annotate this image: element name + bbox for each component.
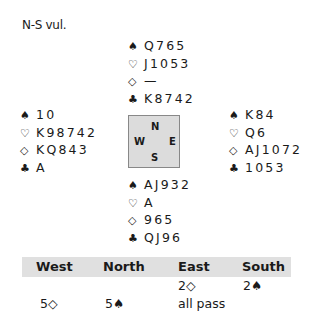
heart-icon: ♡ — [128, 56, 144, 74]
compass-box: N W E S — [128, 115, 180, 168]
compass-east: E — [169, 136, 176, 147]
south-clubs: QJ96 — [144, 230, 182, 245]
north-hearts: J1053 — [144, 56, 191, 71]
spade-icon: ♠ — [128, 177, 144, 195]
west-clubs: A — [36, 160, 47, 175]
diamond-icon: ◇ — [128, 73, 144, 91]
diamond-icon: ◇ — [20, 142, 36, 160]
south-hand: ♠AJ932 ♡A ◇965 ♣QJ96 — [128, 176, 191, 246]
compass-west: W — [134, 136, 145, 147]
north-hand: ♠Q765 ♡J1053 ◇— ♣K8742 — [128, 37, 195, 107]
west-hearts: K98742 — [36, 125, 97, 140]
spade-icon: ♠ — [128, 38, 144, 56]
club-icon: ♣ — [20, 160, 36, 178]
vulnerability-label: N-S vul. — [22, 18, 66, 32]
west-hand: ♠10 ♡K98742 ◇KQ843 ♣A — [20, 106, 97, 176]
north-spades: Q765 — [144, 38, 187, 53]
heart-icon: ♡ — [20, 125, 36, 143]
north-diamonds: — — [144, 73, 159, 88]
north-clubs: K8742 — [144, 91, 195, 106]
auction-header-south: South — [242, 259, 285, 274]
auction-header-north: North — [103, 259, 145, 274]
compass-south: S — [151, 152, 158, 163]
auction-bid: 2◇ — [178, 278, 196, 293]
auction-bid: 2♠ — [243, 278, 262, 293]
spade-icon: ♠ — [229, 107, 245, 125]
south-hearts: A — [144, 195, 155, 210]
auction-bid: all pass — [178, 296, 225, 311]
auction-header-west: West — [36, 259, 73, 274]
south-spades: AJ932 — [144, 177, 191, 192]
compass-north: N — [151, 121, 159, 132]
spade-icon: ♠ — [20, 107, 36, 125]
west-spades: 10 — [36, 107, 56, 122]
east-clubs: 1053 — [245, 160, 286, 175]
east-hearts: Q6 — [245, 125, 267, 140]
auction-bid: 5♠ — [105, 296, 124, 311]
auction-header-east: East — [178, 259, 210, 274]
heart-icon: ♡ — [229, 125, 245, 143]
club-icon: ♣ — [128, 230, 144, 248]
club-icon: ♣ — [229, 160, 245, 178]
auction-bid: 5◇ — [40, 296, 58, 311]
diamond-icon: ◇ — [128, 212, 144, 230]
south-diamonds: 965 — [144, 212, 174, 227]
heart-icon: ♡ — [128, 195, 144, 213]
east-diamonds: AJ1072 — [245, 142, 302, 157]
club-icon: ♣ — [128, 91, 144, 109]
east-hand: ♠K84 ♡Q6 ◇AJ1072 ♣1053 — [229, 106, 302, 176]
east-spades: K84 — [245, 107, 276, 122]
diamond-icon: ◇ — [229, 142, 245, 160]
west-diamonds: KQ843 — [36, 142, 89, 157]
